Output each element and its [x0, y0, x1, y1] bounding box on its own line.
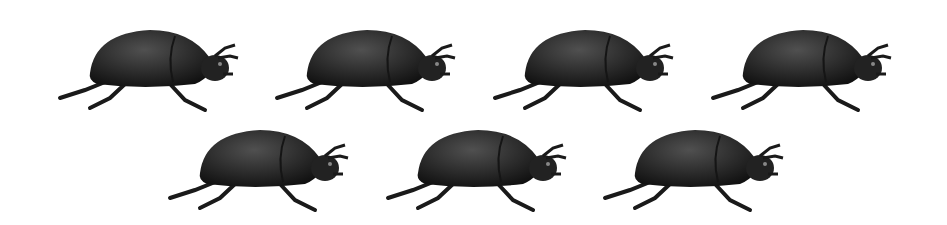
beetle-icon: [708, 18, 888, 118]
beetle-icon: [490, 18, 670, 118]
beetle-icon: [165, 118, 345, 218]
beetle-icon: [383, 118, 563, 218]
beetle-icon: [600, 118, 780, 218]
beetle-icon: [272, 18, 452, 118]
beetle-icon: [55, 18, 235, 118]
